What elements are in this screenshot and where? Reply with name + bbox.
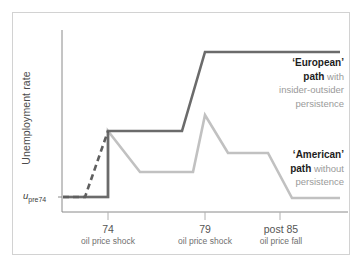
annotation-american-line2: path without <box>290 162 344 176</box>
annotation-european-line3: insider-outsider <box>279 83 344 97</box>
annotation-european-line2: path with <box>279 70 344 84</box>
x-tick-sublabel-post85: oil price fall <box>241 236 321 247</box>
x-tick-sublabel-74: oil price shock <box>68 236 148 247</box>
annotation-american-line2-rest: without <box>311 163 344 174</box>
x-tick-label-post85-value: post 85 <box>264 223 298 235</box>
y-axis-title: Unemployment rate <box>20 58 32 178</box>
x-tick-label-79: 79 oil price shock <box>165 223 245 247</box>
x-tick-label-74: 74 oil price shock <box>68 223 148 247</box>
shared-dashed-initial-segment <box>63 131 108 197</box>
annotation-european-path-word: path <box>303 71 324 82</box>
annotation-european-line2-rest: with <box>324 71 344 82</box>
annotation-american-path: ‘American’ path without persistence <box>290 148 344 189</box>
annotation-american-title: ‘American’ <box>293 149 344 160</box>
x-tick-sublabel-79: oil price shock <box>165 236 245 247</box>
x-tick-label-79-value: 79 <box>199 223 211 235</box>
annotation-european-path: ‘European’ path with insider-outsider pe… <box>279 56 344 110</box>
x-tick-label-post85: post 85 oil price fall <box>241 223 321 247</box>
y-axis-origin-label: upre74 <box>23 190 46 203</box>
annotation-american-path-word: path <box>290 163 311 174</box>
x-tick-label-74-value: 74 <box>102 223 114 235</box>
chart-figure: Unemployment rate upre74 74 oil price sh… <box>0 0 361 271</box>
y-axis-origin-label-sub: pre74 <box>28 196 46 203</box>
annotation-european-line1: ‘European’ <box>279 56 344 70</box>
annotation-american-line3: persistence <box>290 175 344 189</box>
annotation-american-line1: ‘American’ <box>290 148 344 162</box>
annotation-european-title: ‘European’ <box>292 57 344 68</box>
annotation-european-line4: persistence <box>279 97 344 111</box>
